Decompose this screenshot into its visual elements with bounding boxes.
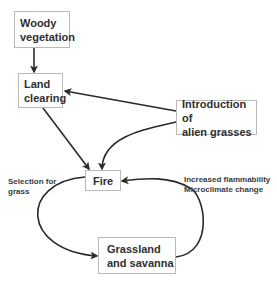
- label-line: grass: [8, 187, 56, 197]
- node-grassland-savanna: Grassland and savanna: [98, 237, 176, 274]
- node-text: clearing: [24, 91, 62, 105]
- edge-label-feedback: Increased flammability Microclimate chan…: [184, 175, 270, 195]
- node-fire: Fire: [85, 170, 121, 191]
- edge-label-selection: Selection for grass: [8, 177, 56, 197]
- node-text: and savanna: [107, 256, 175, 270]
- arrow-land-clearing-to-fire: [43, 108, 89, 169]
- node-text: Grassland: [107, 242, 175, 256]
- node-alien-grasses: Introduction of alien grasses: [176, 100, 257, 135]
- node-woody-vegetation: Woody vegetation: [14, 11, 70, 48]
- node-land-clearing: Land clearing: [18, 73, 63, 108]
- node-text: vegetation: [20, 30, 69, 44]
- arrow-alien-to-land-clearing: [65, 91, 176, 111]
- node-text: Fire: [93, 174, 120, 188]
- arrow-alien-to-fire: [102, 122, 176, 169]
- node-text: Woody: [20, 16, 69, 30]
- node-text: Land: [24, 77, 62, 91]
- label-line: Increased flammability: [184, 175, 270, 185]
- node-text: Introduction of: [182, 97, 256, 125]
- label-line: Selection for: [8, 177, 56, 187]
- label-line: Microclimate change: [184, 185, 270, 195]
- node-text: alien grasses: [182, 125, 256, 139]
